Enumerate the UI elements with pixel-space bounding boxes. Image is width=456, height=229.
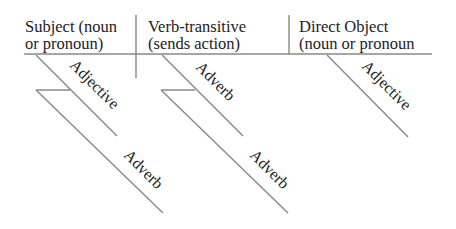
verb-adverb2-slant [161, 90, 288, 213]
sentence-diagram: Subject (noun or pronoun) Verb-transitiv… [0, 0, 456, 229]
verb-adverb2-label: Adverb [247, 146, 293, 192]
subject-adjective-label: Adjective [66, 56, 123, 113]
object-header-line2: (noun or pronoun [299, 34, 414, 53]
subject-adverb-label: Adverb [121, 146, 167, 192]
verb-header-line2: (sends action) [148, 34, 240, 53]
object-adjective-label: Adjective [358, 57, 415, 114]
verb-adverb1-label: Adverb [193, 58, 239, 104]
subject-adverb-slant [36, 90, 163, 213]
subject-header-line2: or pronoun) [25, 34, 103, 53]
